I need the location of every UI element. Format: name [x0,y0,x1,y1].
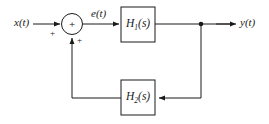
block-h1-argument: (s) [138,17,150,29]
error-signal-label: e(t) [91,8,106,19]
block-h2-argument: (s) [138,90,150,102]
block-diagram-figure: x(t) e(t) y(t) H1(s) H2(s) + + + [0,0,269,124]
summing-junction-center-sign: + [69,19,75,30]
output-signal-label: y(t) [240,17,255,28]
input-signal-label: x(t) [14,17,29,28]
block-h1-label: H1(s) [126,18,150,32]
block-h2-label: H2(s) [126,91,150,105]
summing-junction-input-sign: + [50,29,55,38]
summing-junction-feedback-sign: + [77,36,82,45]
